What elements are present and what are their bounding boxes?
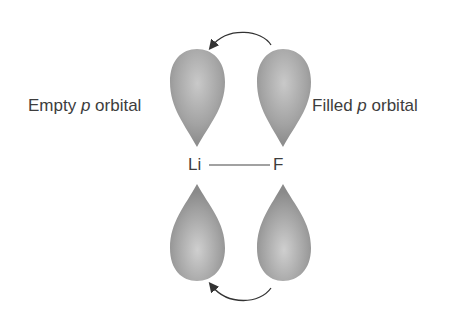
f-top-lobe	[257, 49, 311, 147]
li-bottom-lobe	[170, 184, 225, 281]
top-donation-arrow	[212, 32, 271, 46]
orbital-diagram	[0, 0, 460, 317]
empty-orbital-label: Empty p orbital	[28, 96, 141, 116]
label-text: Empty	[28, 96, 81, 115]
li-top-lobe	[170, 49, 225, 147]
label-italic-p: p	[357, 96, 366, 115]
label-text: orbital	[367, 96, 418, 115]
label-text: Filled	[312, 96, 357, 115]
f-bottom-lobe	[257, 184, 311, 281]
atom-f: F	[273, 155, 283, 175]
bottom-donation-arrow	[212, 286, 271, 301]
label-text: orbital	[90, 96, 141, 115]
atom-li: Li	[188, 155, 201, 175]
filled-orbital-label: Filled p orbital	[312, 96, 418, 116]
label-italic-p: p	[81, 96, 90, 115]
